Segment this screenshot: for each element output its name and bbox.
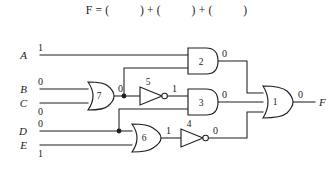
gate-7-label: 7 — [97, 91, 102, 101]
input-label-c: C — [20, 97, 28, 109]
wire-gate7-to-gate2 — [124, 68, 188, 96]
input-label-a: A — [19, 49, 27, 61]
gate-5-label: 5 — [146, 77, 151, 87]
gate-5-bubble-icon — [162, 93, 168, 99]
gate-4-bubble-icon — [203, 135, 209, 141]
value-gate-1-output: 0 — [298, 89, 303, 100]
gate-3-label: 3 — [199, 98, 204, 108]
gate-5-inverter: 5 — [140, 77, 167, 105]
value-input-c: 0 — [38, 106, 43, 117]
output-label-f: F — [318, 96, 326, 108]
junction-dot-gate7-output — [122, 94, 127, 99]
value-input-d: 0 — [38, 118, 43, 129]
value-input-a: 1 — [38, 42, 43, 53]
gate-4-label: 4 — [187, 119, 192, 129]
gate-2-and: 2 — [188, 48, 218, 74]
value-gate-2-output: 0 — [222, 48, 227, 59]
input-label-e: E — [19, 139, 27, 151]
value-gate-5-output: 1 — [172, 83, 177, 94]
logic-circuit-worksheet: F = ( ) + ( ) + ( ) — [0, 0, 333, 181]
junction-dot-input-d — [117, 129, 122, 134]
input-label-b: B — [20, 83, 27, 95]
gate-3-and: 3 — [188, 89, 218, 115]
gate-6-or: 6 — [132, 124, 161, 152]
value-gate-6-output: 1 — [166, 125, 171, 136]
gate-1-or: 1 — [263, 86, 293, 118]
value-input-b: 0 — [38, 76, 43, 87]
circuit-diagram: 7 5 2 3 6 4 — [0, 0, 333, 181]
gate-7-or: 7 — [88, 82, 114, 110]
value-gate-4-output: 0 — [213, 125, 218, 136]
value-input-e: 1 — [38, 148, 43, 159]
gate-6-label: 6 — [142, 133, 147, 143]
gate-2-label: 2 — [199, 57, 204, 67]
gate-1-label: 1 — [273, 97, 278, 107]
value-gate-7-output: 0 — [118, 83, 123, 94]
gate-4-inverter: 4 — [181, 119, 208, 147]
input-label-d: D — [18, 125, 27, 137]
value-gate-3-output: 0 — [222, 89, 227, 100]
